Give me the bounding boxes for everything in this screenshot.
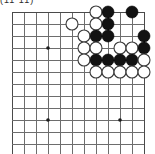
go-diagram-figure: (11 11) (0, 0, 155, 154)
star-point (118, 118, 122, 122)
black-stone[interactable] (90, 30, 102, 42)
white-stone[interactable] (126, 66, 138, 78)
white-stone[interactable] (90, 42, 102, 54)
black-stone[interactable] (126, 6, 138, 18)
black-stone[interactable] (102, 18, 114, 30)
star-point (46, 46, 50, 50)
white-stone[interactable] (114, 42, 126, 54)
black-stone[interactable] (114, 54, 126, 66)
white-stone[interactable] (78, 30, 90, 42)
black-stone[interactable] (102, 54, 114, 66)
white-stone[interactable] (114, 66, 126, 78)
black-stone[interactable] (90, 54, 102, 66)
go-board-canvas[interactable] (0, 0, 155, 154)
white-stone[interactable] (126, 42, 138, 54)
star-point (46, 118, 50, 122)
black-stone[interactable] (102, 30, 114, 42)
black-stone[interactable] (138, 42, 150, 54)
white-stone[interactable] (102, 66, 114, 78)
black-stone[interactable] (126, 54, 138, 66)
board-stones[interactable] (66, 6, 150, 78)
white-stone[interactable] (66, 18, 78, 30)
white-stone[interactable] (90, 6, 102, 18)
white-stone[interactable] (138, 66, 150, 78)
black-stone[interactable] (102, 6, 114, 18)
black-stone[interactable] (138, 30, 150, 42)
go-board[interactable] (0, 0, 155, 154)
white-stone[interactable] (78, 54, 90, 66)
white-stone[interactable] (138, 54, 150, 66)
white-stone[interactable] (90, 18, 102, 30)
white-stone[interactable] (78, 42, 90, 54)
white-stone[interactable] (90, 66, 102, 78)
